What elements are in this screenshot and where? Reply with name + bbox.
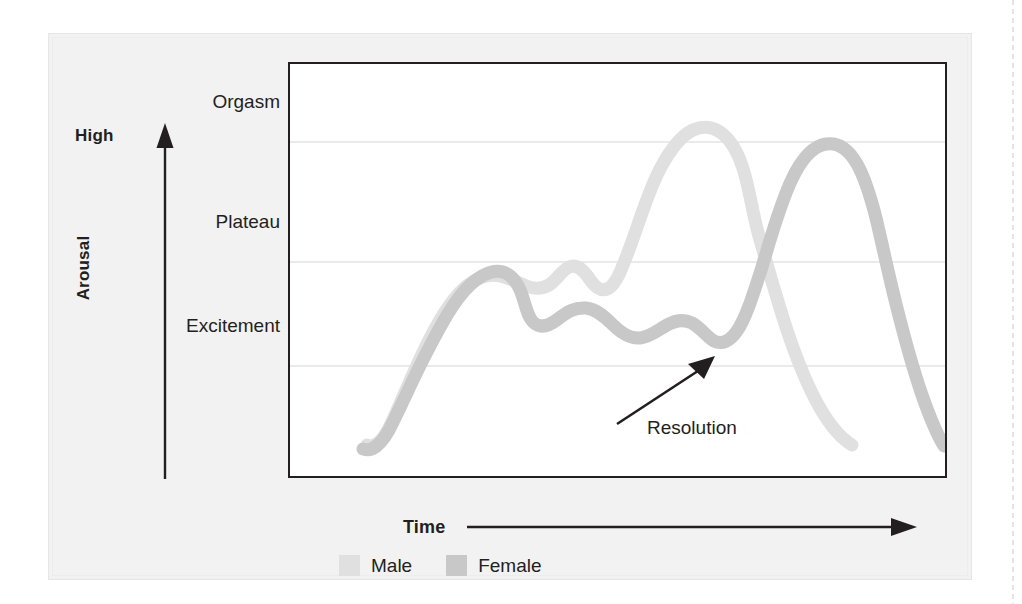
legend-swatch-female — [446, 555, 467, 576]
annotation-label-resolution: Resolution — [647, 417, 737, 439]
page-edge-rule — [1012, 0, 1014, 604]
legend-label-male: Male — [371, 556, 412, 575]
y-tick-label-plateau: Plateau — [216, 212, 280, 231]
plot-area — [288, 62, 947, 478]
y-axis-title: Arousal — [74, 208, 94, 328]
y-axis-tick-labels: Orgasm Plateau Excitement — [108, 33, 280, 580]
chart-legend: Male Female — [339, 555, 542, 576]
arrow-right-icon — [467, 515, 918, 539]
x-axis-title: Time — [403, 517, 446, 538]
legend-item-female: Female — [446, 555, 541, 576]
legend-label-female: Female — [478, 556, 541, 575]
figure-card: High Arousal Orgasm Plateau Excitement — [48, 33, 972, 580]
legend-swatch-male — [339, 555, 360, 576]
legend-item-male: Male — [339, 555, 412, 576]
y-tick-label-excitement: Excitement — [186, 316, 280, 335]
y-tick-label-orgasm: Orgasm — [212, 92, 280, 111]
series-line-male — [367, 127, 852, 446]
